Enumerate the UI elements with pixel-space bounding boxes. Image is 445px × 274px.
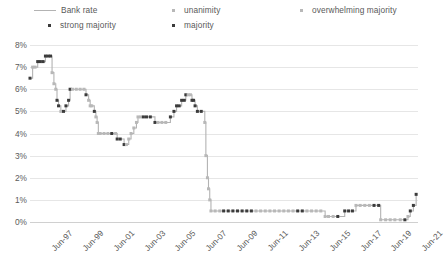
legend-item-unanimity: unanimity	[168, 5, 220, 15]
x-axis-tick-label: Jun-13	[296, 228, 321, 253]
legend-label-unanimity: unanimity	[184, 5, 220, 15]
legend-label-bank-rate: Bank rate	[61, 5, 97, 15]
x-axis-tick-label: Jun-99	[80, 228, 105, 253]
x-axis-tick-label: Jun-15	[327, 228, 352, 253]
x-axis-tick-label: Jun-97	[49, 228, 74, 253]
legend-label-strong-majority: strong majority	[60, 20, 116, 30]
dot-swatch-icon	[48, 24, 51, 27]
x-axis-labels: Jun-97Jun-99Jun-01Jun-03Jun-05Jun-07Jun-…	[30, 36, 418, 274]
x-axis-tick-label: Jun-17	[358, 228, 383, 253]
legend-item-strong-majority: strong majority	[44, 20, 116, 30]
x-axis-tick-label: Jun-19	[389, 228, 414, 253]
legend-item-bank-rate: Bank rate	[34, 5, 97, 15]
chart-legend: Bank rate strong majority unanimity majo…	[0, 0, 422, 36]
legend-item-majority: majority	[168, 20, 214, 30]
dot-swatch-icon	[300, 9, 303, 12]
x-axis-tick-label: Jun-07	[204, 228, 229, 253]
legend-item-overwhelming-majority: overwhelming majority	[296, 5, 397, 15]
line-swatch-icon	[34, 10, 56, 11]
legend-label-majority: majority	[184, 20, 214, 30]
x-axis-tick-label: Jun-01	[111, 228, 136, 253]
x-axis-tick-label: Jun-05	[173, 228, 198, 253]
x-axis-tick-label: Jun-21	[420, 228, 445, 253]
legend-label-overwhelming-majority: overwhelming majority	[312, 5, 397, 15]
x-axis-tick-label: Jun-09	[235, 228, 260, 253]
x-axis-tick-label: Jun-03	[142, 228, 167, 253]
x-axis-tick-label: Jun-11	[265, 228, 290, 253]
plot-area: 0%1%2%3%4%5%6%7%8% Jun-97Jun-99Jun-01Jun…	[0, 36, 422, 274]
dot-swatch-icon	[172, 9, 175, 12]
dot-swatch-icon	[172, 24, 175, 27]
